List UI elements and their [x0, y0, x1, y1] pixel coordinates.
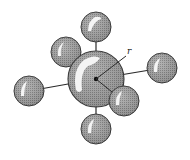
ligand-bottom: [81, 114, 111, 144]
ligand-top: [81, 12, 111, 42]
molecule-diagram: r: [0, 0, 190, 160]
ligand-lower-right: [109, 86, 139, 116]
molecule-svg: r: [0, 0, 190, 160]
ligand-right: [147, 53, 177, 83]
radius-label: r: [127, 46, 132, 56]
ligand-left: [14, 76, 44, 106]
